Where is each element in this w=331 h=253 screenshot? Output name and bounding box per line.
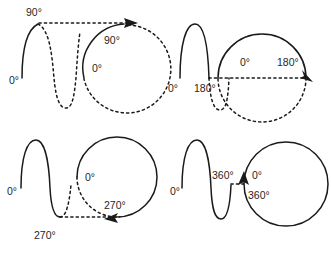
label-wave-trough-270: 270° <box>34 229 56 241</box>
panel-270-degrees: 0° 270° 0° 270° <box>0 127 166 253</box>
label-wave-zero-cross-180: 180° <box>194 82 216 94</box>
wave-dashed-segment-90 <box>38 24 80 108</box>
label-wave-end-360: 360° <box>212 169 234 181</box>
label-wave-start-360: 0° <box>170 185 180 197</box>
circle-dashed-arc-180 <box>218 78 306 122</box>
wave-solid-segment-90 <box>22 24 38 78</box>
wave-dashed-segment-270 <box>60 185 71 217</box>
circle-solid-arc-360 <box>244 142 328 226</box>
label-circle-start-360: 0° <box>252 169 262 181</box>
label-circle-start-270: 0° <box>85 171 95 183</box>
panel-180-degrees: 0° 180° 0° 180° <box>166 0 331 127</box>
wave-solid-segment-180 <box>180 24 209 78</box>
label-circle-start-180: 0° <box>240 56 250 68</box>
label-wave-start-90: 0° <box>9 74 19 86</box>
panel-360-degrees: 0° 360° 0° 360° <box>166 127 331 253</box>
label-circle-end-90: 90° <box>104 34 120 46</box>
circle-dashed-arc-270 <box>77 177 117 217</box>
phase-angle-figure: 0° 90° 0° 90° 0° 180° 0° 180° <box>0 0 331 253</box>
arrow-head-270 <box>104 213 118 223</box>
label-circle-end-360: 360° <box>248 189 270 201</box>
label-circle-end-270: 270° <box>104 199 126 211</box>
label-wave-peak-90: 90° <box>26 6 42 18</box>
label-wave-start-270: 0° <box>7 185 17 197</box>
label-circle-start-90: 0° <box>92 62 102 74</box>
label-circle-end-180: 180° <box>277 56 299 68</box>
circle-solid-arc-90 <box>83 24 124 78</box>
wave-solid-segment-270 <box>21 140 60 217</box>
label-wave-start-180: 0° <box>168 82 178 94</box>
panel-90-degrees: 0° 90° 0° 90° <box>0 0 166 127</box>
